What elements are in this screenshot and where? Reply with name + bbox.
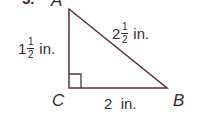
side-ab-numerator: 1 — [122, 22, 128, 32]
vertex-a-label: A — [51, 0, 62, 9]
problem-number: 5. — [22, 0, 35, 6]
side-ac-unit: in. — [39, 41, 55, 56]
right-triangle — [0, 0, 197, 131]
side-ac-length: 1 1 2 in. — [18, 37, 55, 60]
side-ab-denominator: 2 — [122, 35, 128, 45]
side-ab-whole: 2 — [112, 26, 120, 41]
vertex-c-label: C — [52, 92, 64, 109]
side-ab-unit: in. — [133, 26, 149, 41]
right-angle-marker — [69, 74, 81, 88]
side-ac-numerator: 1 — [28, 37, 34, 47]
side-ac-denominator: 2 — [28, 50, 34, 60]
side-ab-length: 2 1 2 in. — [112, 22, 149, 45]
side-ac-whole: 1 — [18, 41, 26, 56]
side-ac-fraction: 1 2 — [27, 37, 34, 60]
vertex-b-label: B — [173, 92, 184, 109]
triangle-outline — [69, 9, 167, 88]
side-ab-fraction: 1 2 — [121, 22, 128, 45]
side-cb-length: 2 in. — [104, 96, 137, 111]
